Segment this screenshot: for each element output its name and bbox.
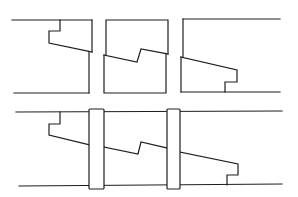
bottom-row-assembled xyxy=(16,109,282,189)
middle-piece-upper-outline xyxy=(106,20,168,55)
collar-strap-2 xyxy=(167,109,180,189)
right-timber-piece xyxy=(181,19,280,92)
middle-timber-piece xyxy=(104,20,168,93)
assembled-bottom-edge xyxy=(19,184,282,186)
middle-piece-step-profile xyxy=(104,49,168,62)
middle-piece-lower-outline xyxy=(104,54,166,93)
left-piece-joint-profile xyxy=(49,20,92,52)
assembled-middle-step xyxy=(104,142,167,154)
assembled-top-edge xyxy=(16,111,282,112)
scarf-joint-diagram xyxy=(0,0,298,197)
assembled-right-notch xyxy=(180,152,238,185)
left-timber-piece xyxy=(12,20,92,93)
assembled-left-notch xyxy=(49,112,90,145)
top-row-disassembled xyxy=(12,19,280,93)
collar-strap-1 xyxy=(89,109,104,189)
right-piece-joint-profile xyxy=(181,57,237,92)
